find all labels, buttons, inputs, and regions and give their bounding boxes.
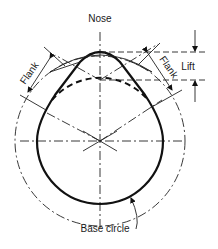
nose-tangent-right bbox=[132, 62, 152, 72]
nose-arc bbox=[50, 55, 152, 72]
base-circle-label: Base circle bbox=[81, 223, 130, 234]
center-lines bbox=[20, 32, 182, 230]
base-circle-leader bbox=[131, 198, 137, 229]
radial-line-left bbox=[47, 113, 100, 141]
cam-diagram: Nose Flank Flank Lift Base circle bbox=[0, 0, 218, 249]
flank-right-label: Flank bbox=[157, 54, 181, 81]
nose-label: Nose bbox=[88, 13, 112, 24]
flank-left-label: Flank bbox=[18, 59, 42, 86]
lift-label: Lift bbox=[181, 61, 195, 72]
flank-right-tick-top bbox=[138, 43, 160, 65]
